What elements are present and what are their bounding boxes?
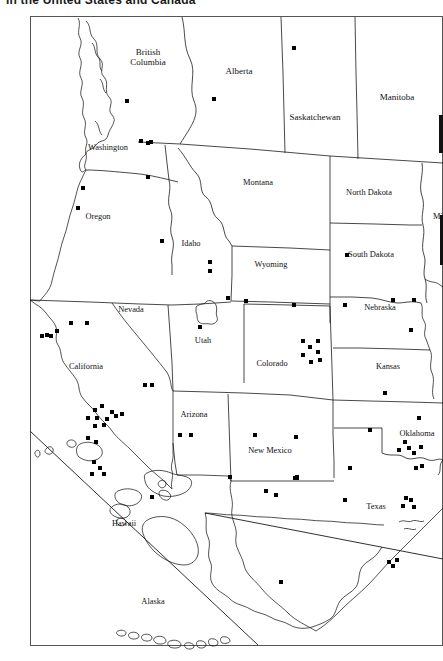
data-point-marker <box>391 298 395 302</box>
map-label-california: California <box>69 362 103 371</box>
data-point-marker <box>86 436 90 440</box>
data-point-marker <box>292 303 296 307</box>
data-point-marker <box>294 435 298 439</box>
data-point-marker <box>226 296 230 300</box>
map-label-washington: Washington <box>88 143 129 152</box>
map-label-utah: Utah <box>195 336 212 345</box>
data-point-marker <box>160 239 164 243</box>
map-label-arizona: Arizona <box>181 410 208 419</box>
data-point-marker <box>409 498 413 502</box>
data-point-marker <box>274 493 278 497</box>
data-point-marker <box>98 466 102 470</box>
map-label-manitoba: Manitoba <box>380 92 415 102</box>
data-point-marker <box>368 428 372 432</box>
data-point-marker <box>114 414 118 418</box>
right-edge-artifact <box>439 115 443 153</box>
data-point-marker <box>417 416 421 420</box>
data-point-marker <box>244 299 248 303</box>
data-point-marker <box>139 139 143 143</box>
data-point-marker <box>397 448 401 452</box>
data-point-marker <box>409 328 413 332</box>
map-label-north-dakota: North Dakota <box>346 188 392 197</box>
data-point-marker <box>143 383 147 387</box>
data-point-marker <box>292 46 296 50</box>
data-point-marker <box>301 353 305 357</box>
page-title: in the United States and Canada <box>6 0 196 4</box>
data-point-marker <box>387 560 391 564</box>
data-point-marker <box>40 334 44 338</box>
data-point-marker <box>93 424 97 428</box>
data-point-marker <box>345 253 349 257</box>
data-point-marker <box>309 360 313 364</box>
map-label-saskatchewan: Saskatchewan <box>290 112 341 122</box>
map-svg: BritishColumbiaAlbertaSaskatchewanManito… <box>0 13 443 661</box>
data-point-marker <box>76 206 80 210</box>
data-point-marker <box>90 472 94 476</box>
data-point-marker <box>94 440 98 444</box>
data-point-marker <box>150 383 154 387</box>
data-point-marker <box>146 175 150 179</box>
map-label-idaho: Idaho <box>181 239 200 248</box>
data-point-marker <box>383 391 387 395</box>
data-point-marker <box>125 99 129 103</box>
data-point-marker <box>391 564 395 568</box>
map-label-kansas: Kansas <box>376 362 400 371</box>
data-point-marker <box>105 417 109 421</box>
data-point-marker <box>412 451 416 455</box>
data-point-marker <box>212 97 216 101</box>
data-point-marker <box>301 339 305 343</box>
data-point-marker <box>189 433 193 437</box>
data-point-marker <box>419 445 423 449</box>
map-label-nebraska: Nebraska <box>364 303 396 312</box>
data-point-marker <box>178 433 182 437</box>
data-point-marker <box>401 504 405 508</box>
map-label-nevada: Nevada <box>118 305 144 314</box>
data-point-marker <box>120 412 124 416</box>
data-point-marker <box>228 475 232 479</box>
data-point-marker <box>150 495 154 499</box>
data-point-marker <box>49 334 53 338</box>
data-point-marker <box>403 440 407 444</box>
map-label-south-dakota: South Dakota <box>348 250 394 259</box>
data-point-marker <box>318 358 322 362</box>
map-label-hawaii: Hawaii <box>112 519 137 528</box>
map-label-montana: Montana <box>243 178 273 187</box>
map-label-british-columbia: BritishColumbia <box>130 47 166 67</box>
map-label-alberta: Alberta <box>226 66 253 76</box>
data-point-marker <box>420 464 424 468</box>
map-container: BritishColumbiaAlbertaSaskatchewanManito… <box>0 13 443 661</box>
data-point-marker <box>279 580 283 584</box>
data-point-marker <box>85 321 89 325</box>
map-label-oregon: Oregon <box>85 212 111 221</box>
data-point-marker <box>86 416 90 420</box>
data-point-marker <box>295 475 299 479</box>
data-point-marker <box>208 260 212 264</box>
alaska-outline <box>117 513 385 649</box>
data-point-marker <box>348 466 352 470</box>
data-point-marker <box>45 333 49 337</box>
map-labels: BritishColumbiaAlbertaSaskatchewanManito… <box>69 47 443 606</box>
data-point-marker <box>414 466 418 470</box>
data-point-marker <box>208 269 212 273</box>
map-label-colorado: Colorado <box>256 359 287 368</box>
map-label-alaska: Alaska <box>141 597 165 606</box>
data-point-marker <box>264 489 268 493</box>
data-point-marker <box>102 472 106 476</box>
data-point-marker <box>404 496 408 500</box>
data-point-marker <box>95 416 99 420</box>
map-frame <box>31 17 443 646</box>
data-point-marker <box>343 303 347 307</box>
data-point-marker <box>100 404 104 408</box>
data-point-marker <box>343 498 347 502</box>
map-label-texas: Texas <box>366 502 385 511</box>
data-point-marker <box>149 140 153 144</box>
data-point-marker <box>198 325 202 329</box>
data-point-marker <box>69 321 73 325</box>
data-point-marker <box>395 558 399 562</box>
data-point-marker <box>92 460 96 464</box>
data-point-marker <box>412 505 416 509</box>
data-point-marker <box>102 423 106 427</box>
data-point-marker <box>110 410 114 414</box>
border-lines <box>30 17 443 645</box>
data-point-marker <box>81 186 85 190</box>
